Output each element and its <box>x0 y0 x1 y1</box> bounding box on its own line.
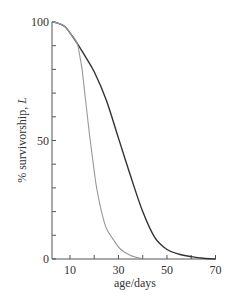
series-lines <box>52 22 216 259</box>
x-tick-label: 10 <box>64 263 76 277</box>
y-axis-title-text: % survivorship, <box>15 104 29 183</box>
survivorship-chart: 050100 10305070 age/days % survivorship,… <box>0 0 236 301</box>
x-axis-title: age/days <box>114 276 156 290</box>
dark-survivorship-curve <box>52 22 216 259</box>
axes: 050100 10305070 <box>31 15 222 277</box>
x-tick-label: 50 <box>161 263 173 277</box>
light-survivorship-curve <box>52 22 143 259</box>
y-axis-title: % survivorship, L <box>15 97 29 183</box>
x-tick-label: 70 <box>210 263 222 277</box>
y-axis-title-italic: L <box>15 97 29 105</box>
x-tick-label: 30 <box>112 263 124 277</box>
y-tick-label: 0 <box>43 252 49 266</box>
y-tick-label: 50 <box>37 134 49 148</box>
y-tick-label: 100 <box>31 15 49 29</box>
